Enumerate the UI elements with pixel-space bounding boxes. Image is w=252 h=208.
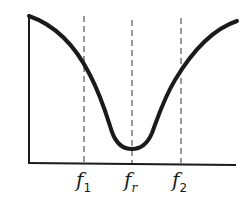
response-curve [29,16,237,149]
label-fr: fr [124,170,137,194]
x-axis [28,163,236,165]
label-f1: f1 [76,170,91,194]
label-f2: f2 [172,170,187,194]
